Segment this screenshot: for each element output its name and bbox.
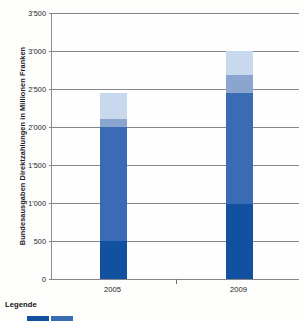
y-tick-label: 1'500 [2, 161, 46, 170]
gridline [52, 241, 299, 242]
bar-2005 [100, 93, 127, 279]
bar-segment-segment-3 [100, 119, 127, 127]
bar-segment-segment-1 [226, 204, 253, 279]
y-tick-mark [49, 203, 52, 204]
y-tick-mark [49, 51, 52, 52]
legend-swatch-row [27, 316, 67, 321]
x-tick-label: 2009 [209, 285, 269, 294]
y-tick-label: 1'000 [2, 199, 46, 208]
legend: Legende [5, 300, 145, 309]
y-tick-mark [49, 165, 52, 166]
bar-segment-segment-2 [226, 93, 253, 204]
bar-segment-segment-2 [100, 127, 127, 241]
y-tick-label: 500 [2, 237, 46, 246]
y-tick-label: 3'000 [2, 47, 46, 56]
bar-segment-segment-3 [226, 75, 253, 92]
plot-area [51, 13, 299, 279]
gridline [52, 165, 299, 166]
bar-segment-segment-1 [100, 241, 127, 279]
bar-2009 [226, 51, 253, 279]
legend-swatch [51, 316, 73, 321]
legend-swatch [27, 316, 49, 321]
gridline [52, 127, 299, 128]
gridline [52, 51, 299, 52]
bar-segment-segment-4 [100, 93, 127, 120]
y-tick-mark [49, 13, 52, 14]
legend-title: Legende [5, 300, 145, 309]
y-tick-label: 2'000 [2, 123, 46, 132]
y-tick-label: 3'500 [2, 9, 46, 18]
gridline [52, 89, 299, 90]
x-axis-tick-mark [176, 279, 177, 284]
y-tick-mark [49, 89, 52, 90]
x-tick-label: 2005 [83, 285, 143, 294]
gridline [52, 203, 299, 204]
bar-segment-segment-4 [226, 51, 253, 75]
gridline [52, 13, 299, 14]
y-tick-mark [49, 127, 52, 128]
stacked-bar-chart: Bundesausgaben Direktzahlungen in Millio… [0, 0, 304, 321]
y-tick-label: 0 [2, 275, 46, 284]
y-tick-label: 2'500 [2, 85, 46, 94]
y-tick-mark [49, 241, 52, 242]
